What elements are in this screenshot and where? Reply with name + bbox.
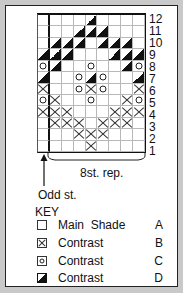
chart-cell-contrast-X: [121, 95, 133, 106]
chart-cell-main-shade: [86, 118, 98, 129]
chart-cell-main-shade: [133, 141, 145, 152]
chart-cell-contrast-D: [38, 49, 50, 60]
chart-cell-main-shade: [109, 15, 121, 26]
chart-cell-main-shade: [109, 61, 121, 72]
chart-cell-contrast-D: [109, 38, 121, 49]
chart-cell-contrast-D: [62, 38, 74, 49]
chart-cell-main-shade: [74, 49, 86, 60]
chart-cell-contrast-X: [74, 129, 86, 140]
chart-cell-contrast-D: [38, 72, 50, 83]
chart-cell-contrast-X: [97, 118, 109, 129]
chart-cell-main-shade: [121, 72, 133, 83]
row-number: 1: [149, 145, 169, 157]
chart-cell-main-shade: [74, 15, 86, 26]
chart-cell-contrast-D: [62, 49, 74, 60]
chart-cell-contrast-X: [38, 84, 50, 95]
chart-cell-main-shade: [97, 95, 109, 106]
key-item-label: Contrast: [58, 254, 103, 268]
chart-cell-main-shade: [97, 141, 109, 152]
repeat-bracket: [47, 153, 146, 163]
chart-cell-main-shade: [50, 26, 62, 37]
chart-cell-main-shade: [38, 38, 50, 49]
chart-cell-main-shade: [50, 15, 62, 26]
chart-cell-contrast-O: [74, 84, 86, 95]
chart-cell-contrast-X: [74, 118, 86, 129]
chart-cell-main-shade: [133, 38, 145, 49]
chart-cell-main-shade: [121, 26, 133, 37]
chart-cell-contrast-O: [97, 72, 109, 83]
chart-cell-contrast-O: [86, 61, 98, 72]
chart-cell-main-shade: [121, 15, 133, 26]
chart-cell-main-shade: [121, 141, 133, 152]
chart-cell-contrast-O: [38, 61, 50, 72]
key-item-label: Contrast: [58, 236, 103, 250]
chart-cell-main-shade: [38, 129, 50, 140]
key-item-b: ContrastB: [35, 236, 163, 250]
chart-cell-contrast-D: [86, 72, 98, 83]
chart-cell-main-shade: [38, 26, 50, 37]
chart-cell-main-shade: [50, 84, 62, 95]
chart-cell-main-shade: [74, 95, 86, 106]
chart-cell-main-shade: [133, 118, 145, 129]
chart-cell-contrast-X: [62, 118, 74, 129]
chart-cell-main-shade: [74, 106, 86, 117]
chart-cell-contrast-D: [133, 49, 145, 60]
chart-cell-main-shade: [133, 129, 145, 140]
chart-cell-contrast-X: [62, 106, 74, 117]
key-item-a: Main ShadeA: [35, 218, 163, 232]
chart-cell-contrast-D: [121, 38, 133, 49]
chart-cell-contrast-X: [86, 141, 98, 152]
chart-cell-contrast-O: [133, 61, 145, 72]
chart-cell-main-shade: [97, 106, 109, 117]
key-title: KEY: [35, 205, 59, 219]
chart-cell-main-shade: [62, 95, 74, 106]
chart-cell-contrast-X: [50, 118, 62, 129]
chart-cell-main-shade: [38, 118, 50, 129]
chart-cell-contrast-D: [121, 61, 133, 72]
chart-cell-contrast-X: [38, 106, 50, 117]
chart-cell-main-shade: [62, 72, 74, 83]
key-item-c: ContrastC: [35, 254, 163, 268]
chart-cell-main-shade: [86, 49, 98, 60]
chart-cell-main-shade: [86, 106, 98, 117]
chart-cell-contrast-X: [133, 106, 145, 117]
chart-cell-main-shade: [109, 72, 121, 83]
chart-cell-contrast-D: [50, 49, 62, 60]
chart-cell-main-shade: [109, 129, 121, 140]
key-item-letter: C: [154, 254, 163, 268]
chart-cell-main-shade: [62, 84, 74, 95]
key-item-label: Contrast: [58, 271, 103, 285]
chart-cell-contrast-X: [86, 129, 98, 140]
chart-cell-contrast-D: [74, 26, 86, 37]
cross-square-icon: [37, 238, 47, 248]
empty-square-icon: [37, 220, 47, 230]
chart-cell-contrast-D: [97, 38, 109, 49]
chart-cell-main-shade: [62, 141, 74, 152]
chart-cell-contrast-D: [50, 61, 62, 72]
chart-cell-contrast-X: [86, 84, 98, 95]
chart-cell-contrast-X: [109, 106, 121, 117]
chart-cell-contrast-X: [121, 106, 133, 117]
chart-cell-main-shade: [50, 129, 62, 140]
chart-cell-main-shade: [50, 72, 62, 83]
chart-cell-main-shade: [74, 61, 86, 72]
key-item-letter: A: [155, 218, 163, 232]
chart-cell-contrast-D: [50, 38, 62, 49]
key-item-letter: D: [154, 271, 163, 285]
chart-cell-contrast-D: [74, 38, 86, 49]
chart-cell-contrast-O: [133, 95, 145, 106]
chart-cell-main-shade: [133, 15, 145, 26]
chart-cell-main-shade: [38, 141, 50, 152]
chart-cell-main-shade: [62, 61, 74, 72]
chart-cell-contrast-X: [97, 129, 109, 140]
chart-cell-main-shade: [109, 84, 121, 95]
chart-cell-main-shade: [109, 141, 121, 152]
chart-cell-main-shade: [50, 141, 62, 152]
odd-stitch-label: Odd st.: [38, 188, 77, 202]
chart-cell-main-shade: [121, 84, 133, 95]
chart-cell-contrast-D: [86, 26, 98, 37]
chart-cell-contrast-O: [74, 72, 86, 83]
chart-cell-contrast-O: [97, 84, 109, 95]
chart-cell-contrast-D: [86, 15, 98, 26]
chart-cell-main-shade: [109, 95, 121, 106]
